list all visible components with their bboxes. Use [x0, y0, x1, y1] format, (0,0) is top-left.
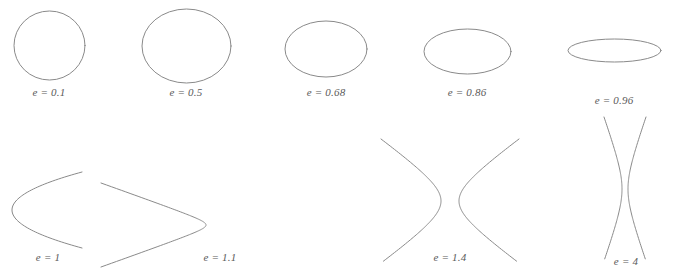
curve-4-right — [628, 117, 646, 259]
label-e-0-86: e = 0.86 — [448, 86, 487, 98]
curve-1-4-right — [459, 139, 519, 261]
curve-0-5 — [142, 9, 231, 83]
label-e-0-1: e = 0.1 — [33, 86, 66, 98]
curve-1-1 — [101, 183, 206, 267]
label-e-1-1: e = 1.1 — [204, 251, 237, 263]
label-e-0-5: e = 0.5 — [170, 86, 203, 98]
curve-0-68 — [285, 21, 367, 77]
curve-0-1 — [14, 11, 85, 80]
label-e-1-4: e = 1.4 — [434, 251, 467, 263]
label-e-1: e = 1 — [36, 251, 60, 263]
curve-1 — [12, 172, 82, 248]
curve-1-4-left — [381, 139, 441, 261]
conic-sections-figure: e = 0.1 e = 0.5 e = 0.68 e = 0.86 e = 0.… — [0, 0, 674, 279]
curve-0-96 — [568, 39, 661, 62]
conic-curves-canvas — [0, 0, 674, 279]
curve-0-86 — [424, 29, 511, 74]
curve-4-left — [604, 117, 622, 259]
label-e-0-96: e = 0.96 — [595, 94, 634, 106]
label-e-4: e = 4 — [614, 255, 638, 267]
label-e-0-68: e = 0.68 — [307, 86, 346, 98]
